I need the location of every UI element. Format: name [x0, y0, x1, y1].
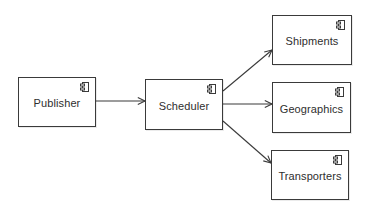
node-label: Geographics — [273, 102, 350, 114]
node-publisher[interactable]: Publisher — [18, 77, 96, 127]
node-shipments[interactable]: Shipments — [272, 15, 352, 65]
edge-scheduler-to-geographics — [223, 101, 272, 108]
component-icon — [335, 87, 344, 97]
node-label: Publisher — [19, 97, 95, 109]
arrowhead-icon — [263, 156, 271, 163]
edge-publisher-to-scheduler — [96, 98, 145, 105]
component-icon — [333, 155, 342, 165]
arrowhead-icon — [264, 50, 272, 57]
component-icon — [207, 84, 216, 94]
arrowhead-icon — [265, 101, 272, 108]
arrowhead-icon — [138, 98, 145, 105]
node-geographics[interactable]: Geographics — [272, 82, 351, 133]
node-label: Transporters — [272, 170, 348, 182]
diagram-canvas: Publisher Scheduler Shipments Geographic… — [0, 0, 367, 213]
edge-scheduler-to-shipments — [223, 50, 272, 91]
node-transporters[interactable]: Transporters — [271, 150, 349, 200]
node-label: Shipments — [273, 35, 351, 47]
node-label: Scheduler — [146, 99, 222, 111]
edge-scheduler-to-transporters — [223, 121, 271, 163]
component-icon — [80, 82, 89, 92]
component-icon — [336, 20, 345, 30]
node-scheduler[interactable]: Scheduler — [145, 79, 223, 130]
